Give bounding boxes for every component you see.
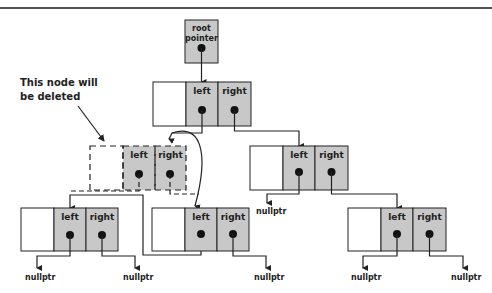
- nullptr-label: nullptr: [451, 273, 481, 282]
- left-label: left: [290, 150, 308, 160]
- right-label: right: [158, 150, 183, 160]
- root-pointer-label-1: root: [192, 24, 211, 33]
- left-label: left: [192, 212, 210, 222]
- right-label: right: [417, 212, 442, 222]
- left-label: left: [130, 150, 148, 160]
- left-label: left: [388, 212, 406, 222]
- right-label: right: [221, 212, 246, 222]
- annotation-line-2: be deleted: [20, 91, 80, 102]
- tree-node-deleted: left right: [90, 146, 186, 190]
- nullptr-label: nullptr: [254, 273, 284, 282]
- annotation-line-1: This node will: [20, 77, 98, 88]
- left-label: left: [61, 212, 79, 222]
- right-label: right: [90, 212, 115, 222]
- nullptr-label: nullptr: [351, 273, 381, 282]
- annotation-arrow: [78, 106, 104, 141]
- tree-diagram: root pointer left right This node will b…: [0, 0, 492, 293]
- left-label: left: [193, 86, 211, 96]
- nullptr-label: nullptr: [123, 273, 153, 282]
- nullptr-label: nullptr: [25, 273, 55, 282]
- nullptr-label: nullptr: [256, 207, 286, 216]
- right-label: right: [222, 86, 247, 96]
- tree-node-bottom-middle: left right: [152, 208, 249, 251]
- root-pointer-label-2: pointer: [185, 34, 218, 43]
- pointer-dot-icon: [197, 230, 205, 238]
- right-label: right: [319, 150, 344, 160]
